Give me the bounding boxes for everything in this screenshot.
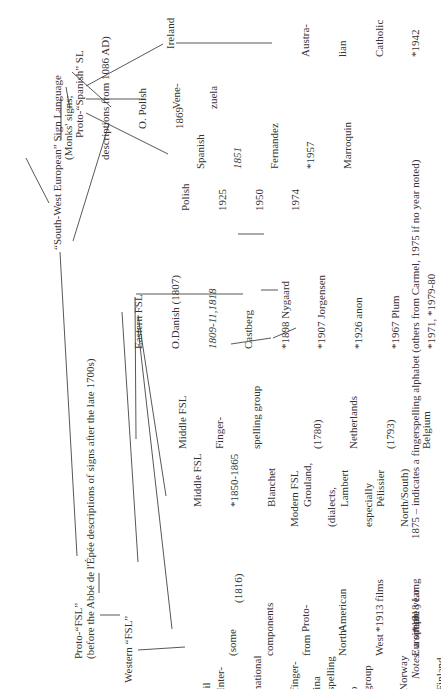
components-line: North-	[336, 603, 348, 656]
brazil-line: 1875	[237, 676, 249, 689]
spanish-line-2: 1851	[231, 122, 243, 169]
brazil-line: Brazil	[274, 676, 286, 689]
polish-line-3: 1950	[253, 183, 265, 211]
mfg-line: Middle FSL	[176, 386, 188, 449]
language-family-tree-diagram: (Monks' signs; descriptions from 1086 AD…	[0, 0, 441, 689]
notes-left-1: a simple year	[409, 589, 421, 648]
polish-line-4: 1974	[289, 183, 301, 211]
spanish-line-1: Spanish	[194, 122, 206, 169]
spanish-line-5: Marroquin	[341, 122, 353, 169]
eastern-line: O.Danish (1807)	[169, 259, 181, 349]
brazil-line: Argentina	[310, 676, 322, 689]
eastern-line: 1809-11,1818	[206, 259, 218, 349]
eastern-line: Castberg	[242, 259, 254, 349]
australian-line-4: *1942	[409, 20, 421, 57]
australian-catholic-node: Austra- lian Catholic *1942	[275, 20, 441, 57]
monks-line-2: descriptions from 1086 AD)	[99, 36, 111, 160]
mfsl-line: *1850-1865	[228, 454, 240, 507]
eastern-fsl-title: Eastern FSL	[132, 259, 144, 349]
modern-fsl-line: Modern FSL	[288, 469, 300, 527]
notes-right-1: 1875 – indicates a fingerspelling alphab…	[409, 160, 421, 539]
spanish-line-3: Fernandez	[268, 122, 280, 169]
old-brazil-node: O.Brazil 1875 Brazil Argentina Mexico	[176, 676, 383, 689]
polish-line-2: 1925	[216, 183, 228, 211]
eastern-line: *1907 Jorgensen	[315, 259, 327, 349]
components-line: West	[373, 603, 385, 656]
notes-label: Notes:	[409, 650, 421, 679]
spanish-node: Spanish 1851 Fernandez *1957 Marroquin	[170, 122, 377, 169]
mfg-line: Finger-	[213, 386, 225, 449]
proto-fsl-note: (before the Abbé de l'Épée descriptions …	[84, 359, 96, 659]
australian-line-1: Austra-	[299, 20, 311, 57]
australian-line-2: lian	[336, 20, 348, 57]
mfg-line: Netherlands	[347, 386, 359, 449]
ireland-node: Ireland	[164, 18, 176, 49]
notes-row-1: Notes: a simple year	[409, 575, 421, 679]
notes-legend: Notes: a simple year a year in parenthes…	[385, 575, 441, 679]
old-polish-line-1: O. Polish	[136, 88, 148, 129]
modern-fsl-line: (dialects,	[325, 469, 337, 527]
eastern-line: *1898 Nygaard	[279, 259, 291, 349]
mfg-line: spelling group	[250, 386, 262, 449]
mfsl-line: Middle FSL	[191, 454, 203, 507]
polish-line-1: Polish	[179, 183, 191, 211]
eastern-line: *1926 anon	[352, 259, 364, 349]
western-fsl-node: Western “FSL”	[122, 616, 134, 683]
components-line: components	[263, 603, 275, 656]
components-line: from	[300, 603, 312, 656]
mfg-line: (1780)	[311, 386, 323, 449]
year-1816-label: (1816)	[232, 574, 244, 603]
proto-fsl-node: Proto-“FSL”	[72, 603, 84, 659]
notes-explanations: 1875 – indicates a fingerspelling alphab…	[385, 160, 441, 539]
brazil-line: Mexico	[347, 676, 359, 689]
australian-line-3: Catholic	[373, 20, 385, 57]
brazil-line: O.Brazil	[200, 676, 212, 689]
polish-node: Polish 1925 1950 1974	[155, 183, 326, 211]
modern-fsl-line: especially	[362, 469, 374, 527]
old-polish-node: O. Polish 1869	[112, 88, 210, 129]
components-line: (some	[226, 603, 238, 656]
old-polish-line-2: 1869	[173, 88, 185, 129]
proto-spanish-node: Proto-“Spanish” SL	[73, 50, 85, 138]
south-west-european-sign-language-node: “South-West European” Sign Language	[51, 75, 63, 250]
spanish-line-4: *1957	[304, 122, 316, 169]
